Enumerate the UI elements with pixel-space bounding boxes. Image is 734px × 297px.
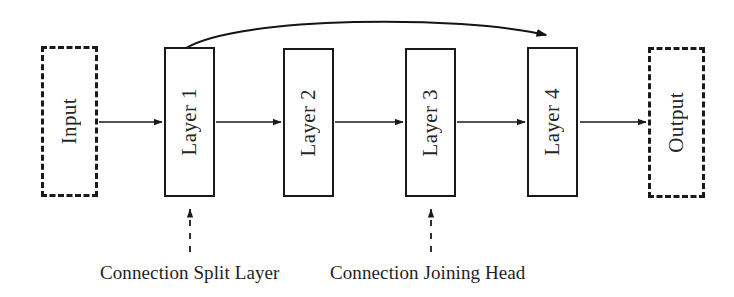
- diagram-canvas: Input Layer 1 Layer 2 Layer 3 Layer 4 Ou…: [0, 0, 734, 297]
- edge-skip-connection: [186, 22, 546, 48]
- node-input-label: Input: [59, 98, 80, 144]
- node-output: Output: [648, 47, 705, 198]
- diagram-connectors-layer: [0, 0, 734, 297]
- node-layer3: Layer 3: [405, 48, 456, 197]
- annotation-label-joining: Connection Joining Head: [330, 262, 525, 284]
- node-layer2-label: Layer 2: [298, 89, 319, 157]
- node-output-label: Output: [666, 92, 687, 153]
- node-layer4: Layer 4: [527, 47, 578, 197]
- node-layer2: Layer 2: [283, 48, 334, 197]
- node-layer1-label: Layer 1: [179, 88, 200, 156]
- node-layer3-label: Layer 3: [420, 89, 441, 157]
- annotation-label-split: Connection Split Layer: [100, 262, 280, 284]
- node-layer4-label: Layer 4: [542, 88, 563, 156]
- node-layer1: Layer 1: [164, 47, 215, 197]
- node-input: Input: [41, 46, 98, 197]
